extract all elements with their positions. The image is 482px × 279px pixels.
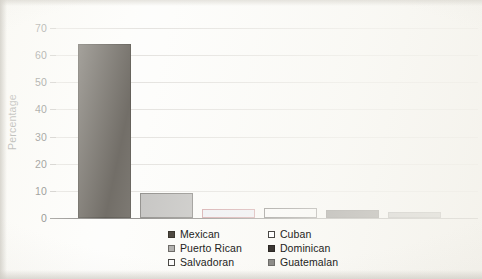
y-axis-tick-label: 0 — [41, 212, 47, 224]
y-axis-tick — [50, 137, 56, 138]
y-axis-title: Percentage — [6, 94, 18, 150]
legend-item-label: Cuban — [280, 228, 311, 241]
legend-item-label: Puerto Rican — [180, 242, 242, 255]
y-axis-tick — [50, 164, 56, 165]
legend-swatch-icon — [168, 259, 175, 266]
legend-item-mexican[interactable]: Mexican — [168, 228, 242, 241]
legend-item-puerto-rican[interactable]: Puerto Rican — [168, 242, 242, 255]
legend-swatch-icon — [168, 231, 175, 238]
legend-item-salvadoran[interactable]: Salvadoran — [168, 256, 242, 269]
bar-dominican[interactable] — [326, 210, 379, 218]
axis-baseline — [56, 218, 478, 219]
legend-item-cuban[interactable]: Cuban — [268, 228, 338, 241]
bar-puerto-rican[interactable] — [140, 193, 193, 219]
chart-legend: MexicanCubanPuerto RicanDominicanSalvado… — [168, 228, 338, 269]
legend-item-guatemalan[interactable]: Guatemalan — [268, 256, 338, 269]
y-axis-tick — [50, 109, 56, 110]
bar-cuban[interactable] — [264, 208, 317, 218]
legend-item-label: Guatemalan — [280, 256, 338, 269]
y-axis-tick — [50, 218, 56, 219]
y-axis-tick — [50, 55, 56, 56]
scan-edge-top — [0, 0, 482, 6]
legend-item-dominican[interactable]: Dominican — [268, 242, 338, 255]
y-axis-tick-label: 30 — [35, 131, 47, 143]
plot-area: 010203040506070 — [56, 28, 478, 218]
y-axis-tick — [50, 82, 56, 83]
y-axis-tick-label: 20 — [35, 158, 47, 170]
legend-swatch-icon — [268, 259, 275, 266]
legend-item-label: Mexican — [180, 228, 220, 241]
legend-swatch-icon — [268, 231, 275, 238]
bar-salvadoran[interactable] — [202, 209, 255, 219]
y-axis-tick-label: 70 — [35, 22, 47, 34]
y-axis-tick — [50, 191, 56, 192]
y-axis-tick-label: 10 — [35, 185, 47, 197]
gridline — [56, 28, 478, 29]
y-axis-tick — [50, 28, 56, 29]
y-axis-tick-label: 50 — [35, 76, 47, 88]
legend-swatch-icon — [168, 245, 175, 252]
legend-item-label: Dominican — [280, 242, 331, 255]
bar-chart-figure: Percentage 010203040506070 MexicanCubanP… — [0, 0, 482, 279]
legend-item-label: Salvadoran — [180, 256, 234, 269]
bar-mexican[interactable] — [78, 44, 131, 218]
y-axis-tick-label: 40 — [35, 103, 47, 115]
y-axis-tick-label: 60 — [35, 49, 47, 61]
legend-swatch-icon — [268, 245, 275, 252]
scan-edge-bottom — [0, 270, 482, 279]
bar-guatemalan[interactable] — [388, 212, 441, 218]
